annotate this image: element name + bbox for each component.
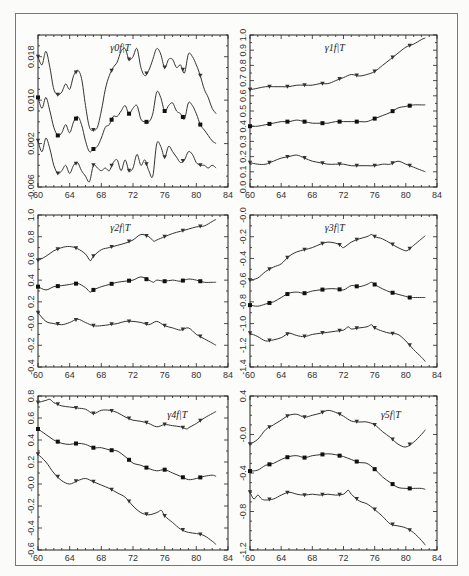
marker-square-middle (110, 118, 114, 122)
marker-triangle-upper (162, 235, 166, 239)
y-tick-label: -0.4 (238, 251, 248, 267)
panel-title: γ4f|T (167, 409, 188, 420)
y-tick-label: 0.4 (26, 274, 36, 287)
marker-square-middle (285, 120, 289, 124)
series-line-middle (38, 91, 216, 152)
series-line-upper (250, 235, 425, 281)
chart-panel-5: 60646872768084-1.2-0.8-0.4-0.00.4γ5f|T (238, 390, 442, 563)
x-tick-label: 84 (432, 190, 442, 200)
marker-square-middle (320, 121, 324, 125)
marker-triangle-lower (372, 326, 376, 330)
marker-triangle-upper (337, 77, 341, 81)
series-line-lower (250, 325, 425, 362)
x-tick-label: 76 (370, 370, 380, 380)
marker-square-middle (91, 446, 95, 450)
marker-square-middle (56, 284, 60, 288)
chart-panel-2: 60646872768084-0.4-0.2-0.00.20.40.60.81.… (26, 209, 233, 380)
y-tick-label: 0.4 (238, 390, 248, 403)
x-tick-label: 80 (401, 553, 411, 563)
chart-panel-1: 606468727680840.00.10.20.30.40.50.60.70.… (238, 29, 442, 200)
marker-square-middle (320, 288, 324, 292)
x-tick-label: 68 (307, 190, 317, 200)
y-tick-label: 0.3 (238, 135, 248, 148)
marker-square-middle (163, 468, 167, 472)
y-tick-label: 0.2 (26, 296, 36, 309)
marker-square-middle (74, 442, 78, 446)
series-line-lower (38, 138, 216, 182)
marker-triangle-upper (109, 69, 113, 73)
marker-triangle-lower (109, 488, 113, 492)
x-tick-label: 64 (65, 553, 75, 563)
plot-area-frame (38, 215, 228, 367)
marker-square-middle (248, 303, 252, 307)
x-tick-label: 64 (276, 370, 286, 380)
marker-square-middle (408, 296, 412, 300)
series-line-upper (38, 48, 216, 130)
x-tick-label: 76 (370, 553, 380, 563)
marker-square-middle (267, 462, 271, 466)
marker-square-middle (181, 279, 185, 283)
series-line-lower (250, 490, 425, 545)
y-tick-label: -0.6 (238, 272, 248, 288)
x-tick-label: 64 (65, 370, 75, 380)
marker-square-middle (373, 282, 377, 286)
marker-square-middle (267, 122, 271, 126)
marker-triangle-upper (372, 69, 376, 73)
marker-triangle-upper (337, 412, 341, 416)
marker-square-middle (36, 285, 40, 289)
y-tick-label: 0.5 (238, 105, 248, 118)
marker-triangle-lower (144, 162, 148, 166)
series-line-middle (250, 454, 425, 490)
marker-square-middle (36, 95, 40, 99)
y-tick-label: -0.0 (238, 207, 248, 223)
y-tick-label: -0.0 (238, 427, 248, 443)
marker-square-middle (355, 460, 359, 464)
x-tick-label: 80 (191, 370, 201, 380)
marker-triangle-upper (198, 74, 202, 78)
marker-square-middle (144, 277, 148, 281)
x-tick-label: 84 (223, 370, 233, 380)
x-tick-label: 68 (96, 190, 106, 200)
y-tick-label: 0.2 (238, 150, 248, 163)
y-tick-label: -0.4 (26, 520, 36, 536)
marker-square-middle (198, 123, 202, 127)
x-tick-label: 68 (96, 553, 106, 563)
marker-triangle-lower (390, 161, 394, 165)
y-tick-label: 0.7 (238, 74, 248, 87)
x-tick-label: 76 (160, 190, 170, 200)
marker-triangle-lower (36, 139, 40, 143)
marker-square-middle (285, 292, 289, 296)
marker-square-middle (267, 301, 271, 305)
x-tick-label: 84 (223, 553, 233, 563)
panel-title: γ5f|T (381, 409, 402, 420)
x-tick-label: 72 (338, 190, 348, 200)
x-tick-label: 64 (276, 553, 286, 563)
y-tick-label: -1.2 (238, 338, 248, 354)
y-tick-label: 0.6 (26, 412, 36, 425)
panel-title: γ1f|T (325, 42, 346, 53)
chart-panel-0: 60646872768084-0.0060.0020.0100.018γ0f|T (26, 35, 233, 200)
marker-square-middle (198, 475, 202, 479)
chart-panel-4: 60646872768084-0.6-0.4-0.2-0.00.20.40.60… (26, 390, 233, 563)
y-tick-label: -0.6 (26, 542, 36, 558)
marker-triangle-upper (267, 267, 271, 271)
x-tick-label: 72 (338, 553, 348, 563)
marker-square-middle (373, 467, 377, 471)
x-tick-label: 84 (432, 370, 442, 380)
y-tick-label: -0.4 (26, 359, 36, 375)
marker-square-middle (408, 104, 412, 108)
marker-square-middle (373, 117, 377, 121)
marker-square-middle (127, 112, 131, 116)
y-tick-label: -0.2 (26, 338, 36, 354)
marker-square-middle (91, 147, 95, 151)
panel-title: γ3f|T (325, 222, 346, 233)
y-tick-label: 1.0 (238, 29, 248, 42)
y-tick-label: 0.1 (238, 166, 248, 179)
marker-square-middle (163, 279, 167, 283)
marker-square-middle (181, 115, 185, 119)
y-tick-label: -1.2 (238, 542, 248, 558)
marker-triangle-lower (181, 327, 185, 331)
y-tick-label: 1.0 (26, 209, 36, 222)
y-tick-label: -1.4 (238, 359, 248, 375)
marker-square-middle (74, 117, 78, 121)
